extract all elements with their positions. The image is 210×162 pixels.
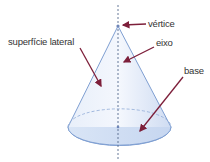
label-base: base [184, 65, 204, 76]
label-vertex: vértice [148, 18, 175, 29]
base-center [117, 126, 120, 129]
cone-figure [0, 0, 210, 162]
label-axis: eixo [156, 37, 173, 48]
arrow-vertex [123, 24, 146, 25]
base-front [68, 127, 171, 145]
vertex-point [116, 24, 119, 27]
label-lateral-surface: superfície lateral [8, 36, 74, 47]
